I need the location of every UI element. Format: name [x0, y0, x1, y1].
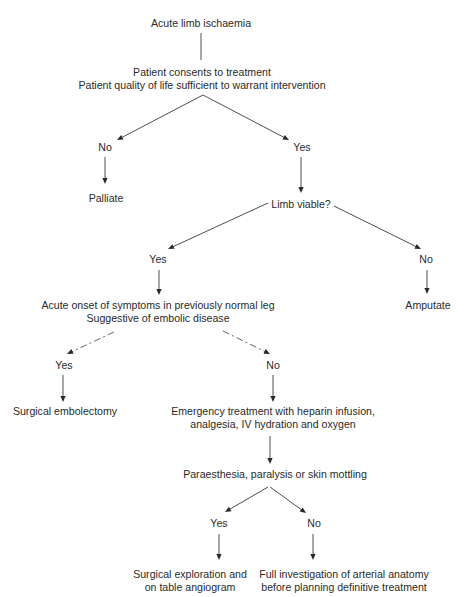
arrowhead-icon — [424, 288, 429, 294]
arrowhead-icon — [300, 507, 306, 513]
node-palliate: Palliate — [89, 192, 124, 205]
edge-embolic-to-no3 — [223, 331, 270, 354]
edge-consent-to-yes1 — [203, 95, 289, 140]
edge-viable-to-yes2 — [168, 203, 268, 249]
node-limb-viable: Limb viable? — [271, 198, 330, 211]
label-yes-paraesthesia: Yes — [210, 517, 227, 530]
arrowhead-icon — [156, 289, 161, 295]
label-no-paraesthesia: No — [307, 517, 321, 530]
node-emergency-treatment: Emergency treatment with heparin infusio… — [171, 405, 375, 431]
node-embolic-disease: Acute onset of symptoms in previously no… — [41, 299, 274, 325]
label-yes-consent: Yes — [293, 141, 310, 154]
edge-consent-to-no1 — [117, 95, 203, 140]
node-patient-consent: Patient consents to treatmentPatient qua… — [78, 66, 325, 92]
arrowhead-icon — [60, 396, 65, 402]
label-yes-embolic: Yes — [55, 359, 72, 372]
label-yes-viable: Yes — [149, 253, 166, 266]
node-acute-limb-ischaemia: Acute limb ischaemia — [151, 17, 251, 30]
edge-no1-to-palliate — [102, 157, 107, 184]
edge-embolic-to-yes3 — [67, 332, 114, 354]
node-paraesthesia: Paraesthesia, paralysis or skin mottling — [183, 468, 367, 481]
edge-yes1-to-viable — [298, 157, 303, 193]
edge-paraesthesia-to-no4 — [270, 487, 306, 513]
label-no-viable: No — [419, 253, 433, 266]
edge-yes3-to-embolectomy — [60, 375, 65, 402]
edge-no2-to-amputate — [424, 270, 429, 294]
arrowhead-icon — [267, 458, 272, 464]
arrowhead-icon — [310, 554, 315, 560]
arrowhead-icon — [216, 554, 221, 560]
flowchart-acute-limb-ischaemia: Acute limb ischaemia Patient consents to… — [0, 0, 470, 597]
node-full-investigation: Full investigation of arterial anatomybe… — [259, 568, 429, 594]
label-no-embolic: No — [266, 359, 280, 372]
arrowhead-icon — [298, 187, 303, 193]
node-surgical-embolectomy: Surgical embolectomy — [13, 405, 117, 418]
node-amputate: Amputate — [405, 299, 450, 312]
arrowhead-icon — [225, 507, 231, 512]
edge-yes2-to-embolic — [156, 270, 161, 295]
edge-viable-to-no2 — [334, 206, 421, 249]
edge-no3-to-emergency — [270, 375, 275, 402]
node-surgical-exploration: Surgical exploration andon table angiogr… — [133, 568, 247, 594]
label-no-consent: No — [98, 141, 112, 154]
edge-no4-to-investigation — [310, 534, 315, 560]
arrowhead-icon — [102, 178, 107, 184]
edge-yes4-to-exploration — [216, 534, 221, 560]
edge-emergency-to-paraesthesia — [267, 436, 272, 464]
arrowhead-icon — [270, 396, 275, 402]
edge-paraesthesia-to-yes4 — [225, 487, 268, 512]
